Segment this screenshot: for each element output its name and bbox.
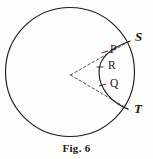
dashed-radius-to-t xyxy=(71,75,129,109)
figure-caption: Fig. 6 xyxy=(0,142,153,154)
main-circle xyxy=(6,8,135,137)
point-label-p: P xyxy=(110,44,116,56)
point-label-q: Q xyxy=(110,78,118,90)
point-label-t: T xyxy=(134,102,142,115)
point-label-s: S xyxy=(135,30,142,43)
dashed-radius-to-s xyxy=(71,41,131,75)
figure-container: S T P R Q Fig. 6 xyxy=(0,0,153,159)
point-label-r: R xyxy=(108,60,116,72)
geometry-figure xyxy=(0,0,153,159)
tick-mark-p xyxy=(102,51,109,53)
